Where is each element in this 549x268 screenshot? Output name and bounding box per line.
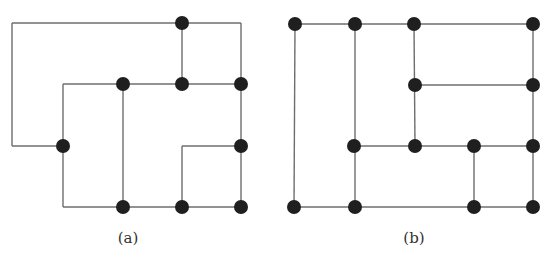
graph-node	[348, 200, 362, 214]
graph-node	[234, 77, 248, 91]
graph-node	[175, 200, 189, 214]
graph-node	[408, 139, 422, 153]
graph-node	[467, 139, 481, 153]
graph-figure: (a) (b)	[0, 0, 549, 268]
graph-node	[526, 78, 540, 92]
graph-node	[234, 200, 248, 214]
graph-node	[526, 17, 540, 31]
panel-a-graph: (a)	[12, 16, 248, 247]
graph-node	[56, 139, 70, 153]
panel-a-edges	[12, 23, 241, 207]
graph-node	[288, 17, 302, 31]
graph-node	[116, 200, 130, 214]
graph-edge	[294, 24, 295, 207]
graph-node	[348, 17, 362, 31]
graph-node	[408, 78, 422, 92]
panel-b-caption: (b)	[403, 229, 424, 247]
graph-node	[175, 16, 189, 30]
panel-b-edges	[294, 24, 533, 207]
graph-node	[347, 139, 361, 153]
graph-node	[234, 139, 248, 153]
graph-node	[175, 77, 189, 91]
graph-node	[407, 17, 421, 31]
graph-node	[287, 200, 301, 214]
panel-a-nodes	[56, 16, 248, 214]
graph-node	[116, 77, 130, 91]
graph-node	[526, 200, 540, 214]
panel-a-caption: (a)	[118, 229, 139, 247]
graph-node	[467, 200, 481, 214]
graph-node	[526, 139, 540, 153]
panel-b-graph: (b)	[287, 17, 540, 247]
